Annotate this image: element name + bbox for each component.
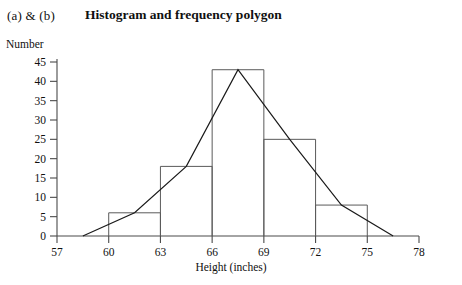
y-tick-label: 35 <box>35 95 47 107</box>
y-tick-label: 15 <box>35 172 47 184</box>
histogram-plot: 051015202530354045 5760636669727578 <box>0 0 462 285</box>
x-tick-label: 63 <box>155 246 167 258</box>
y-tick-label: 10 <box>35 191 47 203</box>
x-tick-label: 66 <box>206 246 218 258</box>
histogram-bars <box>109 70 368 236</box>
histogram-bar <box>316 205 368 236</box>
histogram-bar <box>160 166 212 236</box>
x-tick-label: 78 <box>413 246 425 258</box>
x-axis-ticks: 5760636669727578 <box>51 236 425 258</box>
y-tick-label: 30 <box>35 114 47 126</box>
x-tick-label: 72 <box>310 246 322 258</box>
x-tick-label: 60 <box>103 246 115 258</box>
y-tick-label: 20 <box>35 153 47 165</box>
histogram-bar <box>109 213 161 236</box>
y-tick-label: 45 <box>35 56 47 68</box>
y-tick-label: 0 <box>40 230 46 242</box>
x-tick-label: 57 <box>51 246 63 258</box>
x-tick-label: 69 <box>258 246 270 258</box>
y-axis-ticks: 051015202530354045 <box>35 56 58 242</box>
frequency-polygon-line <box>83 70 393 236</box>
y-tick-label: 5 <box>40 211 46 223</box>
x-tick-label: 75 <box>362 246 374 258</box>
y-tick-label: 40 <box>35 75 47 87</box>
histogram-bar <box>264 139 316 236</box>
y-tick-label: 25 <box>35 133 47 145</box>
chart-page: (a) & (b) Histogram and frequency polygo… <box>0 0 462 285</box>
